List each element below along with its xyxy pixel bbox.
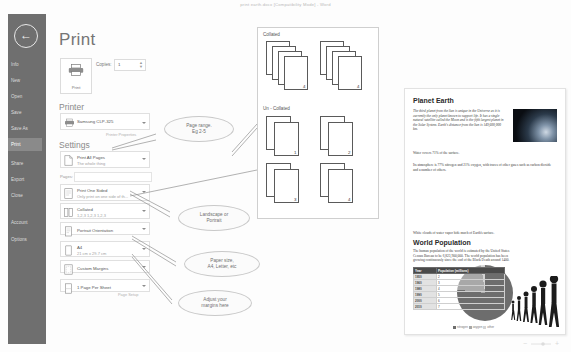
document-heading-planet-earth: Planet Earth bbox=[413, 97, 454, 104]
pages-per-sheet-primary: 1 Page Per Sheet bbox=[77, 285, 111, 290]
settings-heading: Settings bbox=[59, 140, 90, 150]
copies-stepper[interactable]: 1 ▲▼ bbox=[114, 59, 146, 71]
paper-size-select[interactable]: A4 21 cm x 29.7 cm bbox=[60, 241, 150, 257]
orientation-select[interactable]: Portrait Orientation bbox=[60, 222, 150, 235]
earth-photo bbox=[513, 109, 557, 142]
page-setup-link[interactable]: Page Setup bbox=[118, 292, 138, 297]
margins-icon bbox=[64, 264, 73, 275]
margins-primary: Custom Margins bbox=[77, 266, 108, 271]
callout-orientation: Landscape or Portrait bbox=[178, 205, 250, 231]
copies-spinner-icon[interactable]: ▲▼ bbox=[139, 61, 143, 69]
print-sides-select[interactable]: Print One Sided Only print on one side o… bbox=[60, 184, 150, 201]
legend-label: oxygen bbox=[473, 325, 483, 329]
sidebar-item-share[interactable]: Share bbox=[8, 157, 42, 170]
collate-diagram: Collated 1 2 3 4 1 2 3 4 Un - Collated 1… bbox=[257, 27, 379, 219]
print-button-label: Print bbox=[61, 85, 91, 90]
pages-input[interactable] bbox=[74, 172, 152, 182]
callout-margins: Adjust your margins here bbox=[178, 290, 252, 316]
sidebar-item-save-as[interactable]: Save As bbox=[8, 122, 42, 135]
sidebar-item-info[interactable]: Info bbox=[8, 58, 42, 71]
callout-paper-size: Paper size, A4, Letter, etc bbox=[184, 251, 260, 277]
print-sides-secondary: Only print on one side of th... bbox=[77, 194, 128, 199]
chevron-down-icon[interactable] bbox=[142, 122, 146, 124]
collated-sheet: 4 bbox=[338, 56, 362, 90]
sheet-number: 3 bbox=[294, 197, 296, 202]
sheet-number: 1 bbox=[294, 150, 296, 155]
document-preview[interactable]: Planet Earth The third planet from the S… bbox=[404, 88, 566, 335]
pages-per-sheet-select[interactable]: 1 Page Per Sheet bbox=[60, 279, 150, 292]
chevron-down-icon[interactable] bbox=[142, 158, 146, 160]
sidebar-item-save[interactable]: Save bbox=[8, 106, 42, 119]
orientation-icon bbox=[64, 226, 73, 237]
callout-orientation-line2: Portrait bbox=[200, 218, 228, 225]
population-figures-graphic bbox=[509, 276, 561, 328]
paper-icon bbox=[64, 245, 73, 256]
callout-page-range-line2: Eg 2-5 bbox=[186, 129, 212, 136]
printer-icon bbox=[68, 64, 84, 76]
printer-heading: Printer bbox=[59, 102, 84, 112]
uncollated-sheet: 2 bbox=[328, 122, 353, 156]
sheet-number: 2 bbox=[348, 150, 350, 155]
callout-page-range: Page range. Eg 2-5 bbox=[164, 116, 234, 142]
window-title: print earth.docx [Compatibility Mode] - … bbox=[0, 2, 571, 7]
callout-paper-size-line2: A4, Letter, etc bbox=[208, 264, 237, 271]
print-range-primary: Print All Pages bbox=[77, 155, 105, 160]
one-sided-icon bbox=[64, 188, 73, 199]
printer-properties-link[interactable]: Printer Properties bbox=[106, 132, 136, 137]
document-paragraph-population: The human population of the world is est… bbox=[413, 249, 513, 263]
print-sides-primary: Print One Sided bbox=[77, 188, 107, 193]
chevron-down-icon[interactable] bbox=[142, 191, 146, 193]
margins-select[interactable]: Custom Margins bbox=[60, 260, 150, 273]
print-range-select[interactable]: Print All Pages The whole thing bbox=[60, 151, 150, 168]
sidebar-item-label: Share bbox=[11, 161, 23, 166]
legend-item-oxygen: oxygen bbox=[469, 325, 483, 329]
chevron-down-icon[interactable] bbox=[142, 248, 146, 250]
sidebar-item-label: Options bbox=[11, 237, 27, 242]
cell-population: 7 bbox=[437, 304, 505, 310]
zoom-in-icon: + bbox=[555, 340, 559, 347]
chevron-down-icon[interactable] bbox=[142, 266, 146, 268]
document-icon bbox=[64, 155, 73, 166]
callout-margins-line2: margins here bbox=[201, 303, 228, 310]
printer-select[interactable]: Samsung CLP-325 bbox=[60, 113, 150, 130]
document-paragraph-clouds: White clouds of water vapor hide much of… bbox=[413, 231, 557, 236]
collation-secondary: 1,2,3 1,2,3 1,2,3 bbox=[77, 213, 106, 218]
back-arrow-icon[interactable]: ← bbox=[14, 24, 38, 48]
sidebar-item-label: Account bbox=[11, 220, 28, 225]
document-paragraph-water: Water covers 71% of the surface. bbox=[413, 151, 505, 156]
collate-icon bbox=[64, 207, 73, 218]
sidebar-item-close[interactable]: Close bbox=[8, 189, 42, 202]
sidebar-item-label: Save bbox=[11, 110, 21, 115]
chevron-down-icon[interactable] bbox=[142, 285, 146, 287]
uncollated-label: Un - Collated bbox=[263, 106, 290, 111]
pages-label: Pages: bbox=[60, 174, 73, 179]
sidebar-item-export[interactable]: Export bbox=[8, 173, 42, 186]
sidebar-item-options[interactable]: Options bbox=[8, 233, 42, 246]
sheet-number: 4 bbox=[303, 84, 305, 89]
page-title: Print bbox=[59, 30, 95, 50]
printer-name: Samsung CLP-325 bbox=[77, 119, 113, 124]
uncollated-sheet: 3 bbox=[274, 169, 299, 203]
sidebar-item-label: Print bbox=[11, 142, 20, 147]
collation-select[interactable]: Collated 1,2,3 1,2,3 1,2,3 bbox=[60, 203, 150, 219]
sidebar-item-label: Save As bbox=[11, 126, 28, 131]
orientation-primary: Portrait Orientation bbox=[77, 228, 113, 233]
sidebar-item-new[interactable]: New bbox=[8, 74, 42, 87]
zoom-control[interactable]: − + bbox=[521, 338, 565, 348]
paper-size-secondary: 21 cm x 29.7 cm bbox=[77, 251, 106, 256]
sidebar-item-print[interactable]: Print bbox=[8, 138, 42, 151]
print-button[interactable]: Print bbox=[60, 58, 92, 94]
sidebar-item-account[interactable]: Account bbox=[8, 216, 42, 229]
word-backstage-print-screen: print earth.docx [Compatibility Mode] - … bbox=[0, 0, 571, 352]
chevron-down-icon[interactable] bbox=[142, 228, 146, 230]
uncollated-sheet: 4 bbox=[328, 169, 353, 203]
collated-label: Collated bbox=[263, 32, 280, 37]
printer-device-icon bbox=[64, 118, 75, 127]
copies-value: 1 bbox=[118, 62, 120, 67]
chevron-down-icon[interactable] bbox=[142, 210, 146, 212]
legend-label: nitrogen bbox=[457, 325, 468, 329]
sidebar-item-open[interactable]: Open bbox=[8, 90, 42, 103]
document-intro-paragraph: The third planet from the Sun is unique … bbox=[413, 109, 505, 132]
sheet-number: 4 bbox=[348, 197, 350, 202]
uncollated-sheet: 1 bbox=[274, 122, 299, 156]
